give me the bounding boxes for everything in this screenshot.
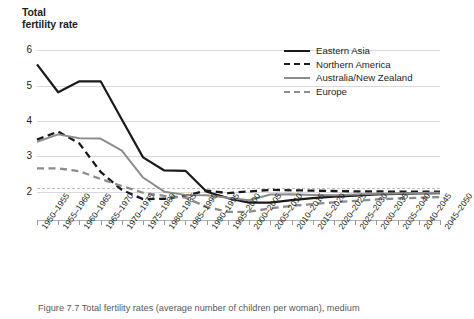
x-tick-15 [355, 220, 356, 225]
x-tick-5 [143, 220, 144, 225]
legend-item-europe[interactable]: Europe [284, 85, 446, 99]
x-tick-16 [376, 220, 377, 225]
legend-swatch-northern-america [284, 59, 310, 69]
x-tick-4 [122, 220, 123, 225]
x-tick-18 [419, 220, 420, 225]
chart-legend: Eastern AsiaNorthern AmericaAustralia/Ne… [284, 44, 446, 98]
x-tick-8 [207, 220, 208, 225]
legend-label-australia-new-zealand: Australia/New Zealand [316, 72, 413, 83]
series-line-northern-america [37, 132, 440, 200]
figure-caption: Figure 7.7 Total fertility rates (averag… [38, 303, 438, 314]
x-tick-14 [334, 220, 335, 225]
x-tick-12 [292, 220, 293, 225]
legend-label-eastern-asia: Eastern Asia [316, 45, 370, 56]
x-tick-1 [58, 220, 59, 225]
legend-item-northern-america[interactable]: Northern America [284, 58, 446, 72]
chart-axis-title: Totalfertility rate [22, 6, 78, 30]
y-tick-label-6: 6 [26, 45, 32, 55]
legend-swatch-europe [284, 87, 310, 97]
legend-label-europe: Europe [316, 86, 347, 97]
x-tick-9 [228, 220, 229, 225]
y-tick-label-3: 3 [26, 151, 32, 161]
x-tick-19 [440, 220, 441, 225]
x-tick-0 [37, 220, 38, 225]
legend-item-australia-new-zealand[interactable]: Australia/New Zealand [284, 71, 446, 85]
x-tick-3 [101, 220, 102, 225]
x-tick-6 [164, 220, 165, 225]
legend-label-northern-america: Northern America [316, 59, 391, 70]
legend-swatch-eastern-asia [284, 46, 310, 56]
x-tick-13 [313, 220, 314, 225]
y-tick-label-2: 2 [26, 187, 32, 197]
x-tick-2 [79, 220, 80, 225]
legend-swatch-australia-new-zealand [284, 73, 310, 83]
x-tick-17 [398, 220, 399, 225]
axis-title-line-1: Total [22, 6, 46, 18]
legend-item-eastern-asia[interactable]: Eastern Asia [284, 44, 446, 58]
x-tick-10 [249, 220, 250, 225]
axis-title-line-2: fertility rate [22, 18, 78, 30]
y-tick-label-4: 4 [26, 116, 32, 126]
x-axis-tick-labels: 1950–19551955–19601960–19651965–19701970… [37, 226, 440, 288]
x-tick-11 [270, 220, 271, 225]
y-tick-label-5: 5 [26, 81, 32, 91]
